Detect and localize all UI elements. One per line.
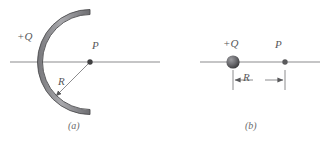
physics-figure: +Q P R (a) [0, 0, 335, 143]
point-p-dot [87, 59, 92, 64]
charge-label: +Q [17, 31, 32, 42]
point-p-dot [282, 59, 287, 64]
distance-label: R [243, 72, 250, 83]
point-p-label: P [92, 40, 99, 51]
panel-b: +Q P R (b) [165, 0, 335, 143]
radius-label: R [58, 76, 65, 87]
panel-b-caption: (b) [245, 121, 257, 131]
charge-label: +Q [223, 38, 238, 49]
panel-a: +Q P R (a) [0, 0, 170, 143]
panel-a-drawing [0, 0, 170, 143]
point-p-label: P [275, 39, 282, 50]
point-charge-sphere [226, 55, 239, 68]
panel-a-caption: (a) [68, 121, 80, 131]
